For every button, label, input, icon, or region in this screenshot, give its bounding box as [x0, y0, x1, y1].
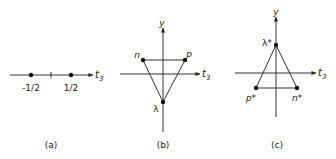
point-p-bar [254, 86, 258, 90]
t3-axis-label: t3 [202, 68, 210, 82]
point-minus-half [29, 73, 33, 77]
caption-b: (b) [157, 140, 170, 150]
t3-axis-label: t3 [318, 67, 326, 81]
point-plus-half [69, 73, 73, 77]
label-lambda-bar: λ* [262, 38, 272, 48]
point-n [141, 58, 145, 62]
panel-a: -1/2 1/2 t3 (a) [10, 69, 103, 150]
label-plus-half: 1/2 [64, 83, 78, 93]
label-p: p [185, 49, 192, 59]
baryon-triangle [143, 60, 185, 102]
caption-c: (c) [271, 140, 283, 150]
panel-b: n p λ y t3 (b) [120, 18, 210, 150]
point-n-bar [295, 86, 299, 90]
label-p-bar: p* [245, 93, 257, 103]
label-minus-half: -1/2 [22, 83, 40, 93]
caption-a: (a) [45, 140, 58, 150]
panel-c: λ* p* n* y t3 (c) [235, 7, 326, 150]
isospin-diagrams: -1/2 1/2 t3 (a) n p λ y t3 (b) λ* p* n* … [0, 0, 336, 159]
label-n: n [134, 50, 140, 60]
y-axis-label: y [158, 18, 165, 28]
y-axis-label: y [272, 7, 279, 17]
label-n-bar: n* [292, 93, 303, 103]
point-lambda-bar [274, 43, 278, 47]
label-lambda: λ [153, 104, 159, 114]
t3-axis-label: t3 [95, 69, 103, 83]
point-lambda [161, 100, 165, 104]
